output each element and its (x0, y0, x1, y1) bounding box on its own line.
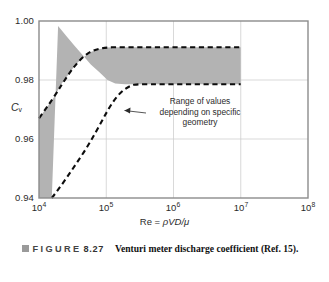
annotation-line: Range of values (144, 96, 256, 107)
figure-caption: FIGURE8.27Venturi meter discharge coeffi… (22, 243, 322, 256)
range-annotation: Range of values depending on specific ge… (144, 96, 256, 128)
ytick-label: 0.98 (0, 74, 34, 85)
xtick-label: 108 (291, 201, 325, 213)
xtick-mantissa: 10 (99, 202, 110, 213)
annotation-line: geometry (144, 117, 256, 128)
xtick-label: 104 (22, 201, 56, 213)
xtick-label: 107 (224, 201, 258, 213)
xtick-exponent: 7 (244, 201, 248, 208)
xtick-mantissa: 10 (166, 202, 177, 213)
caption-figure-number: 8.27 (84, 244, 104, 254)
y-axis-title-subscript: v (19, 106, 22, 113)
xtick-exponent: 5 (109, 201, 113, 208)
xtick-mantissa: 10 (234, 202, 245, 213)
y-axis-title: Cv (11, 101, 22, 113)
xtick-label: 105 (89, 201, 123, 213)
xtick-exponent: 8 (311, 201, 315, 208)
xtick-label: 106 (156, 201, 190, 213)
y-axis-title-main: C (11, 101, 19, 113)
x-axis-title-math: ρVD/μ (163, 216, 189, 227)
xtick-mantissa: 10 (301, 202, 312, 213)
x-axis-title-prefix: Re = (140, 216, 163, 227)
annotation-line: depending on specific (144, 107, 256, 118)
xtick-exponent: 6 (176, 201, 180, 208)
ytick-label: 0.96 (0, 133, 34, 144)
caption-square-marker (22, 245, 29, 252)
x-axis-title: Re = ρVD/μ (0, 216, 329, 227)
caption-figure-word: FIGURE (33, 244, 82, 254)
caption-text: Venturi meter discharge coefficient (Ref… (115, 243, 299, 254)
xtick-mantissa: 10 (32, 202, 43, 213)
ytick-label: 1.00 (0, 15, 34, 26)
figure-area: 1.00 0.98 0.96 0.94 Cv 104 105 106 107 1… (0, 0, 329, 238)
xtick-exponent: 4 (42, 201, 46, 208)
